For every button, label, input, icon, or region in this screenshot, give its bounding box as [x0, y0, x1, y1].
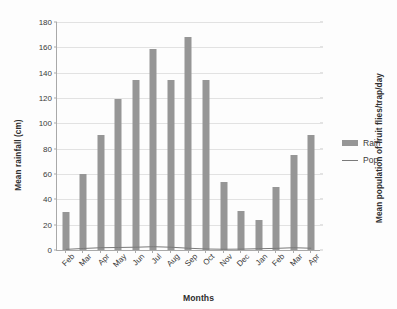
- bar-mar-13: [290, 155, 297, 250]
- bar-jul-5: [150, 49, 157, 250]
- legend-line-swatch-icon: [342, 157, 358, 163]
- y2-axis-tick-mark: [320, 72, 323, 73]
- x-axis-tick-label: Dec: [235, 252, 251, 268]
- y2-axis-tick-mark: [320, 199, 323, 200]
- x-axis-tick-mark: [310, 250, 311, 253]
- rainfall-fruitfly-chart: Mean rainfall (cm) Mean population of fr…: [0, 0, 397, 309]
- x-axis-tick-label: Nov: [217, 252, 233, 268]
- x-axis-title: Months: [0, 293, 397, 303]
- chart-legend: Rain Pop: [342, 136, 394, 170]
- bar-jun-4: [132, 80, 139, 250]
- x-axis-tick-label: Apr: [96, 252, 111, 267]
- legend-label-pop: Pop: [363, 155, 378, 165]
- bar-slot: [250, 22, 268, 250]
- bar-mar-1: [80, 174, 87, 250]
- bar-slot: [267, 22, 285, 250]
- bar-slot: [75, 22, 93, 250]
- x-axis-tick-label: May: [112, 252, 129, 269]
- bar-oct-8: [203, 80, 210, 250]
- y-axis-tick-label: 0: [48, 246, 52, 255]
- y2-axis-tick-mark: [320, 250, 323, 251]
- bar-slot: [197, 22, 215, 250]
- x-axis-tick-mark: [205, 250, 206, 253]
- bar-slot: [285, 22, 303, 250]
- bar-slot: [110, 22, 128, 250]
- legend-item-rain: Rain: [342, 136, 394, 150]
- bar-slot: [127, 22, 145, 250]
- x-axis-tick-label: Feb: [60, 252, 76, 268]
- bar-slot: [57, 22, 75, 250]
- x-axis-tick-mark: [240, 250, 241, 253]
- x-axis-tick-mark: [293, 250, 294, 253]
- x-axis-tick-mark: [135, 250, 136, 253]
- x-axis-tick-mark: [65, 250, 66, 253]
- bar-dec-10: [238, 211, 245, 250]
- x-axis-tick-label: Aug: [165, 252, 181, 268]
- y-axis-title-left: Mean rainfall (cm): [14, 80, 23, 230]
- bar-slot: [145, 22, 163, 250]
- plot-area: 020406080100120140160180: [56, 22, 320, 251]
- y2-axis-tick-mark: [320, 174, 323, 175]
- y2-axis-tick-mark: [320, 123, 323, 124]
- x-axis-tick-label: Jan: [253, 252, 268, 267]
- x-axis-tick-mark: [258, 250, 259, 253]
- y2-axis-tick-mark: [320, 148, 323, 149]
- y-axis-tick-label: 160: [39, 43, 52, 52]
- bar-slot: [232, 22, 250, 250]
- x-axis-tick-label: Oct: [201, 252, 216, 267]
- x-axis-tick-label: Mar: [78, 252, 94, 268]
- bar-apr-2: [97, 135, 104, 250]
- y-axis-tick-label: 60: [43, 170, 52, 179]
- x-axis-tick-label: Apr: [306, 252, 321, 267]
- legend-item-pop: Pop: [342, 153, 394, 167]
- bar-jan-11: [255, 220, 262, 250]
- x-axis-tick-mark: [117, 250, 118, 253]
- x-axis-tick-mark: [152, 250, 153, 253]
- bar-slot: [180, 22, 198, 250]
- bar-sep-7: [185, 37, 192, 250]
- bar-slot: [302, 22, 320, 250]
- y-axis-tick-label: 100: [39, 119, 52, 128]
- bar-slot: [162, 22, 180, 250]
- y-axis-tick-label: 80: [43, 144, 52, 153]
- x-axis-tick-label: Mar: [288, 252, 304, 268]
- x-axis-tick-label: Sep: [182, 252, 198, 268]
- x-axis-tick-label: Feb: [270, 252, 286, 268]
- bar-nov-9: [220, 182, 227, 250]
- legend-bar-swatch-icon: [342, 140, 358, 146]
- bar-slot: [215, 22, 233, 250]
- bar-feb-0: [62, 212, 69, 250]
- bar-slot: [92, 22, 110, 250]
- x-axis-tick-mark: [170, 250, 171, 253]
- y2-axis-tick-mark: [320, 98, 323, 99]
- y-axis-tick-label: 20: [43, 220, 52, 229]
- x-axis-tick-mark: [223, 250, 224, 253]
- x-axis-tick-mark: [188, 250, 189, 253]
- y-axis-tick-label: 120: [39, 94, 52, 103]
- x-axis-tick-label: Jul: [150, 252, 164, 266]
- y2-axis-tick-mark: [320, 224, 323, 225]
- bar-may-3: [115, 99, 122, 250]
- y2-axis-tick-mark: [320, 47, 323, 48]
- bar-aug-6: [167, 80, 174, 250]
- legend-label-rain: Rain: [363, 138, 380, 148]
- x-axis-tick-mark: [100, 250, 101, 253]
- bar-feb-12: [273, 187, 280, 250]
- y-axis-tick-label: 180: [39, 18, 52, 27]
- x-axis-ticks: FebMarAprMayJunJulAugSepOctNovDecJanFebM…: [56, 252, 319, 292]
- x-axis-tick-mark: [82, 250, 83, 253]
- bar-apr-14: [308, 135, 315, 250]
- y2-axis-tick-mark: [320, 22, 323, 23]
- x-axis-tick-label: Jun: [131, 252, 146, 267]
- y-axis-tick-label: 40: [43, 195, 52, 204]
- y-axis-tick-label: 140: [39, 68, 52, 77]
- bars-layer: [57, 22, 320, 250]
- x-axis-tick-mark: [275, 250, 276, 253]
